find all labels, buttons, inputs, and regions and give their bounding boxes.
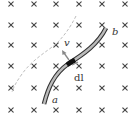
field-cross-icon [123, 23, 127, 27]
field-cross-icon [100, 2, 104, 6]
field-cross-icon [9, 64, 13, 68]
field-cross-icon [9, 43, 13, 47]
field-cross-icon [32, 64, 36, 68]
field-cross-icon [77, 23, 81, 27]
field-cross-icon [100, 43, 104, 47]
field-cross-icon [123, 43, 127, 47]
field-cross-icon [77, 43, 81, 47]
field-cross-icon [54, 86, 58, 90]
element-label: dl [74, 72, 84, 83]
field-cross-icon [54, 64, 58, 68]
magnetic-field-diagram: v dl a b [0, 0, 134, 128]
field-cross-icon [100, 108, 104, 112]
field-cross-icon [77, 64, 81, 68]
field-cross-icon [9, 23, 13, 27]
velocity-label: v [64, 37, 70, 48]
field-cross-icon [9, 108, 13, 112]
field-cross-icon [54, 23, 58, 27]
end-label-b: b [112, 26, 118, 37]
field-cross-icon [100, 64, 104, 68]
field-cross-icon [54, 2, 58, 6]
field-cross-icon [77, 108, 81, 112]
velocity-arrow [64, 53, 69, 60]
field-cross-icon [123, 2, 127, 6]
field-cross-icon [123, 64, 127, 68]
magnetic-field-crosses [9, 2, 127, 112]
field-cross-icon [100, 23, 104, 27]
field-cross-icon [123, 86, 127, 90]
field-cross-icon [123, 108, 127, 112]
field-cross-icon [9, 86, 13, 90]
field-cross-icon [32, 2, 36, 6]
field-cross-icon [32, 86, 36, 90]
field-cross-icon [77, 2, 81, 6]
field-cross-icon [32, 43, 36, 47]
start-label-a: a [52, 94, 58, 105]
wire-outline [44, 28, 106, 104]
field-cross-icon [32, 23, 36, 27]
field-cross-icon [77, 86, 81, 90]
field-cross-icon [100, 86, 104, 90]
dashed-trajectory [12, 16, 76, 92]
field-cross-icon [32, 108, 36, 112]
field-cross-icon [54, 108, 58, 112]
field-cross-icon [9, 2, 13, 6]
